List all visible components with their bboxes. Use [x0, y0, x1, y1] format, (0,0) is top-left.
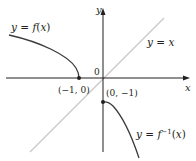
f-curve-label: y = f(x): [10, 21, 50, 33]
x-axis-arrow-icon: [183, 76, 190, 81]
point-0-neg1: [101, 100, 105, 104]
origin-label: 0: [94, 67, 100, 77]
identity-line-label: y = x: [146, 36, 174, 48]
inverse-function-diagram: y = f(x) y x 0 y = x (−1, 0) (0, −1) y =…: [0, 0, 196, 161]
f-inverse-curve-label: y = f−1(x): [135, 128, 186, 140]
point-0-neg1-label: (0, −1): [106, 88, 138, 98]
point-neg1-0: [77, 76, 81, 80]
x-axis-label: x: [185, 82, 191, 93]
point-neg1-0-label: (−1, 0): [58, 85, 90, 95]
f-inverse-curve: [103, 102, 139, 158]
y-axis-label: y: [95, 4, 102, 15]
f-curve: [9, 35, 79, 78]
